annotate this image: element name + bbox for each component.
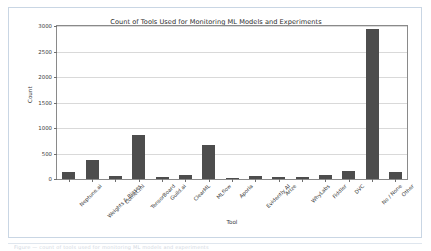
y-tick-label: 1500 bbox=[38, 100, 52, 106]
gridline bbox=[57, 77, 407, 78]
y-tick-label: 2500 bbox=[38, 49, 52, 55]
plot-area: 050010001500200025003000 bbox=[56, 25, 408, 180]
y-tick-label: 0 bbox=[49, 176, 52, 182]
x-tick-mark bbox=[69, 179, 70, 182]
x-tick-label: No / None bbox=[381, 183, 403, 205]
x-tick-label: MLflow bbox=[215, 183, 232, 200]
y-tick-mark bbox=[54, 128, 57, 129]
x-tick-mark bbox=[372, 179, 373, 182]
bar bbox=[132, 135, 145, 179]
gridline bbox=[57, 154, 407, 155]
gridline bbox=[57, 26, 407, 27]
y-tick-mark bbox=[54, 52, 57, 53]
x-tick-label: Neptune.ai bbox=[78, 183, 102, 207]
bar bbox=[342, 171, 355, 179]
x-tick-mark bbox=[115, 179, 116, 182]
x-tick-mark bbox=[92, 179, 93, 182]
x-tick-mark bbox=[185, 179, 186, 182]
x-tick-label: Aporia bbox=[238, 183, 254, 199]
x-tick-mark bbox=[255, 179, 256, 182]
bar bbox=[366, 29, 379, 179]
x-tick-mark bbox=[302, 179, 303, 182]
y-tick-mark bbox=[54, 154, 57, 155]
y-tick-label: 2000 bbox=[38, 74, 52, 80]
y-axis-title: Count bbox=[27, 86, 33, 103]
x-tick-mark bbox=[279, 179, 280, 182]
x-tick-label: Fiddler bbox=[331, 183, 348, 200]
y-tick-mark bbox=[54, 103, 57, 104]
x-tick-label: DVC bbox=[353, 183, 365, 195]
gridline bbox=[57, 52, 407, 53]
document-page: Count of Tools Used for Monitoring ML Mo… bbox=[0, 0, 431, 251]
bar bbox=[389, 172, 402, 179]
page-caption: Figure — count of tools used for monitor… bbox=[14, 244, 414, 251]
x-tick-mark bbox=[139, 179, 140, 182]
y-tick-mark bbox=[54, 77, 57, 78]
x-tick-mark bbox=[162, 179, 163, 182]
x-tick-label: Other bbox=[401, 183, 416, 198]
x-tick-mark bbox=[395, 179, 396, 182]
x-tick-label: WhyLabs bbox=[310, 183, 331, 204]
y-tick-label: 3000 bbox=[38, 23, 52, 29]
x-tick-mark bbox=[349, 179, 350, 182]
y-tick-mark bbox=[54, 26, 57, 27]
bar bbox=[86, 160, 99, 179]
x-tick-mark bbox=[209, 179, 210, 182]
y-tick-mark bbox=[54, 179, 57, 180]
gridline bbox=[57, 103, 407, 104]
gridline bbox=[57, 128, 407, 129]
y-tick-label: 1000 bbox=[38, 125, 52, 131]
x-axis-title: Tool bbox=[56, 219, 408, 225]
y-tick-label: 500 bbox=[42, 151, 52, 157]
bar bbox=[202, 145, 215, 179]
x-tick-mark bbox=[232, 179, 233, 182]
x-tick-label: ClearML bbox=[192, 183, 211, 202]
figure-frame: Count of Tools Used for Monitoring ML Mo… bbox=[8, 7, 422, 238]
bar bbox=[62, 172, 75, 179]
